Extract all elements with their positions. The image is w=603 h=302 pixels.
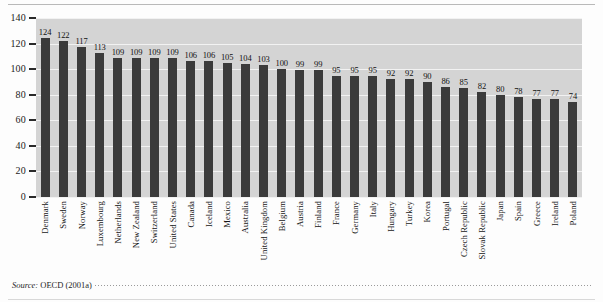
x-axis-slot: Mexico (218, 199, 236, 277)
bar (41, 38, 50, 197)
x-axis-slot: Germany (345, 199, 363, 277)
x-axis-slot: Denmark (36, 199, 54, 277)
bar-slot: 109 (127, 18, 145, 197)
bar-value-label: 100 (276, 59, 288, 68)
bar (241, 64, 250, 197)
bar (95, 53, 104, 197)
x-axis-slot: United Kingdom (254, 199, 272, 277)
bar-value-label: 77 (532, 89, 540, 98)
bar-series: 1241221171131091091091091061061051041031… (36, 18, 582, 197)
figure-bottom-rule (8, 299, 595, 300)
x-axis-slot: Spain (509, 199, 527, 277)
x-axis-category-label: Slovak Republic (478, 201, 487, 260)
y-axis-tick-label: 0 (21, 192, 29, 202)
bar-value-label: 124 (39, 28, 51, 37)
x-axis-category-label: Mexico (223, 201, 232, 228)
x-axis-slot: Luxembourg (91, 199, 109, 277)
bar-value-label: 109 (148, 48, 160, 57)
x-axis-category-label: Japan (496, 201, 505, 221)
bar-slot: 106 (200, 18, 218, 197)
x-axis-slot: Netherlands (109, 199, 127, 277)
bar-slot: 103 (254, 18, 272, 197)
x-axis-category-label: Italy (368, 201, 377, 217)
x-axis-category-label: Canada (186, 201, 195, 227)
bar (259, 65, 268, 197)
x-axis-slot: Norway (72, 199, 90, 277)
x-axis-slot: Japan (491, 199, 509, 277)
x-axis-category-label: Norway (77, 201, 86, 229)
x-axis-category-label: Greece (532, 201, 541, 226)
source-dotted-leader (95, 285, 591, 286)
bar (77, 47, 86, 197)
bar (168, 58, 177, 197)
y-axis-tick-mark (29, 170, 36, 172)
y-axis-tick-label: 60 (16, 115, 29, 125)
bar-value-label: 80 (496, 85, 504, 94)
bar-slot: 113 (91, 18, 109, 197)
source-text: Source: OECD (2001a) (12, 281, 92, 290)
bar (113, 58, 122, 197)
bar-slot: 124 (36, 18, 54, 197)
bar-value-label: 106 (203, 51, 215, 60)
gridline (36, 197, 582, 198)
bar-slot: 80 (491, 18, 509, 197)
x-axis-category-label: Belgium (277, 201, 286, 231)
x-axis-category-label: Spain (514, 201, 523, 221)
bar-value-label: 113 (94, 43, 106, 52)
source-citation: OECD (2001a) (38, 280, 92, 290)
bar-value-label: 104 (239, 54, 251, 63)
bar (496, 95, 505, 197)
bar-value-label: 103 (257, 55, 269, 64)
bar-slot: 86 (436, 18, 454, 197)
x-axis-category-label: United Kingdom (259, 201, 268, 260)
bar (514, 97, 523, 197)
bar (477, 92, 486, 197)
bar-value-label: 95 (332, 66, 340, 75)
source-note: Source: OECD (2001a) (12, 281, 591, 290)
bar-value-label: 92 (387, 69, 395, 78)
y-axis-tick-mark (29, 68, 36, 70)
bar-slot: 109 (145, 18, 163, 197)
bar (186, 61, 195, 197)
y-axis-tick-label: 120 (10, 38, 29, 48)
x-axis-slot: Greece (527, 199, 545, 277)
x-axis-slot: Iceland (200, 199, 218, 277)
bar-slot: 95 (327, 18, 345, 197)
y-axis-tick-label: 100 (10, 64, 29, 74)
source-label: Source: (12, 280, 38, 290)
bar-slot: 122 (54, 18, 72, 197)
bar-slot: 85 (455, 18, 473, 197)
bar-slot: 77 (527, 18, 545, 197)
x-axis-slot: Poland (564, 199, 582, 277)
x-axis-slot: Sweden (54, 199, 72, 277)
x-axis-category-label: United States (168, 201, 177, 248)
bar-value-label: 106 (184, 51, 196, 60)
bar-value-label: 109 (112, 48, 124, 57)
y-axis-tick-mark (29, 43, 36, 45)
x-axis-category-label: Korea (423, 201, 432, 223)
x-axis-category-label: New Zealand (132, 201, 141, 248)
bar (386, 79, 395, 197)
x-axis-category-label: Finland (314, 201, 323, 228)
x-axis-category-label: Sweden (59, 201, 68, 229)
bar-value-label: 99 (296, 60, 304, 69)
x-axis-category-label: Switzerland (150, 201, 159, 243)
x-axis-slot: Korea (418, 199, 436, 277)
bar (459, 88, 468, 197)
x-axis-slot: Belgium (273, 199, 291, 277)
bar-value-label: 82 (478, 82, 486, 91)
bar-slot: 74 (564, 18, 582, 197)
bar (295, 70, 304, 197)
bar (132, 58, 141, 197)
x-axis-slot: France (327, 199, 345, 277)
y-axis-tick-mark (29, 17, 36, 19)
x-axis-category-label: Poland (569, 201, 578, 225)
bar-slot: 82 (473, 18, 491, 197)
bar (350, 76, 359, 197)
bar (405, 79, 414, 197)
bar-slot: 100 (273, 18, 291, 197)
x-axis-slot: Italy (364, 199, 382, 277)
bar-value-label: 109 (166, 48, 178, 57)
y-axis-tick-label: 140 (10, 13, 29, 23)
x-axis-slot: Switzerland (145, 199, 163, 277)
